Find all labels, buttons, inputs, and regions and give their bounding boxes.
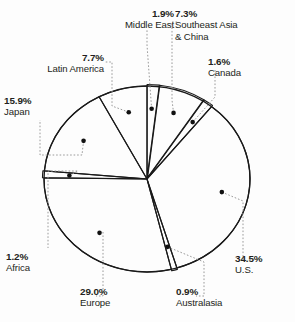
pie-slice-southeast-asia-china[interactable]: [148, 85, 204, 177]
slice-name-middle-east: Middle East: [125, 19, 174, 30]
slice-marker-dot: [67, 173, 72, 178]
leader-line-latin-america: [104, 62, 129, 112]
slice-marker-dot: [126, 110, 131, 115]
pie-slice-latin-america[interactable]: [99, 86, 147, 179]
slice-percent-australasia: 0.9%: [176, 286, 198, 297]
slice-name-latin-america: Latin America: [47, 63, 104, 74]
slice-name-australasia: Australasia: [176, 297, 222, 308]
slice-label-us: 34.5% U.S.: [235, 253, 293, 276]
pie-slice-u-s[interactable]: [147, 107, 250, 268]
leader-line-japan: [40, 120, 84, 155]
slice-marker-dot: [81, 139, 86, 144]
slice-label-middle-east: 1.9% Middle East: [92, 8, 174, 31]
slice-marker-dot: [97, 231, 102, 236]
slice-marker-dot: [171, 111, 176, 116]
chart-canvas: 1.9% Middle East 7.3% Southeast Asia & C…: [0, 0, 295, 322]
slice-percent-latin-america: 7.7%: [82, 52, 104, 63]
slice-label-japan: 15.9% Japan: [4, 95, 74, 118]
slice-percent-us: 34.5%: [235, 253, 263, 264]
slice-name-europe: Europe: [80, 297, 110, 308]
slice-name-africa: Africa: [6, 262, 30, 273]
slice-label-canada: 1.6% Canada: [208, 56, 288, 79]
slice-name-us: U.S.: [235, 264, 253, 275]
slice-marker-dot: [190, 120, 195, 125]
slice-percent-europe: 29.0%: [80, 286, 108, 297]
slice-percent-southeast-asia-china: 7.3%: [175, 8, 197, 19]
leader-line-u-s: [222, 192, 243, 262]
slice-name-japan: Japan: [4, 106, 30, 117]
slice-label-africa: 1.2% Africa: [6, 251, 76, 274]
slice-label-europe: 29.0% Europe: [80, 286, 166, 309]
slice-name-southeast-asia-china-line2: & China: [175, 31, 208, 42]
slice-label-australasia: 0.9% Australasia: [176, 286, 268, 309]
slice-label-latin-america: 7.7% Latin America: [14, 52, 104, 75]
slice-marker-dot: [165, 245, 170, 250]
leader-line-africa: [48, 171, 78, 248]
pie-slice-canada[interactable]: [148, 100, 213, 178]
slice-percent-africa: 1.2%: [6, 251, 28, 262]
slice-percent-middle-east: 1.9%: [152, 8, 174, 19]
slice-name-southeast-asia-china-line1: Southeast Asia: [175, 19, 238, 30]
slice-label-southeast-asia-china: 7.3% Southeast Asia & China: [175, 8, 293, 42]
slice-percent-japan: 15.9%: [4, 95, 32, 106]
pie-slice-australasia[interactable]: [147, 180, 177, 270]
slice-name-canada: Canada: [208, 67, 241, 78]
leader-line-middle-east: [147, 30, 152, 109]
slice-marker-dot: [220, 190, 225, 195]
slice-marker-dot: [149, 107, 154, 112]
slice-percent-canada: 1.6%: [208, 56, 230, 67]
